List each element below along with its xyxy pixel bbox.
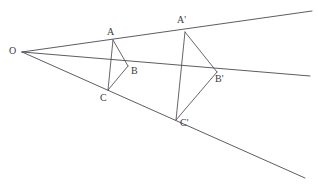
edge-Bprime-Cprime [176, 72, 217, 120]
ray-O-C-Cprime [22, 52, 305, 178]
ray-O-B-Bprime [22, 52, 310, 76]
geometry-canvas [0, 0, 318, 187]
edge-C-A [108, 40, 113, 90]
edge-A-B [113, 40, 128, 66]
edge-B-C [108, 66, 128, 90]
edge-Cprime-Aprime [176, 32, 185, 120]
ray-O-A-Aprime [22, 11, 312, 52]
point-label-O: O [9, 46, 16, 56]
point-label-B: B [131, 66, 138, 76]
point-label-C: C [100, 93, 107, 103]
point-label-B-prime: B' [215, 74, 223, 84]
homothety-diagram: O A B C A' B' C' [0, 0, 318, 187]
triangle-A-B-C-prime [176, 32, 217, 120]
triangle-ABC [108, 40, 128, 90]
point-label-A-prime: A' [177, 15, 186, 25]
rays-group [22, 11, 312, 178]
point-label-C-prime: C' [180, 118, 188, 128]
point-label-A: A [107, 27, 114, 37]
